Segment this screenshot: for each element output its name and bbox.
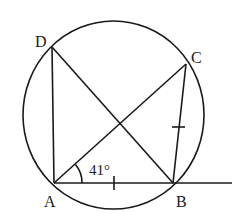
label-a: A [44, 193, 56, 210]
label-b: B [176, 193, 187, 210]
geometry-diagram: D C A B 41° [0, 0, 240, 213]
angle-arc [76, 165, 83, 184]
segment-ad [52, 47, 54, 183]
angle-label: 41° [89, 162, 110, 178]
segment-db [52, 47, 173, 183]
label-c: C [191, 49, 202, 66]
segment-bc [173, 64, 186, 183]
label-d: D [35, 33, 47, 50]
